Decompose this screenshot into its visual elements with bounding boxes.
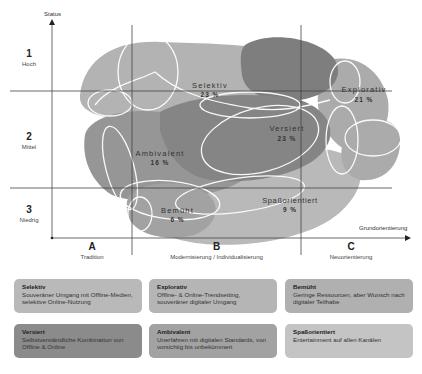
card-selektiv-title: Selektiv — [22, 283, 134, 291]
card-selektiv: Selektiv Souveräner Umgang mit Offline-M… — [14, 279, 142, 313]
card-bemueht-text: Geringe Ressourcen, aber Wunsch nach dig… — [293, 291, 405, 306]
col-b-name: Modernisierung / Individualisierung — [132, 254, 301, 260]
card-bemueht-title: Bemüht — [293, 283, 405, 291]
y-axis-label: Status — [44, 11, 61, 17]
card-bemueht: Bemüht Geringe Ressourcen, aber Wunsch n… — [285, 279, 413, 313]
segment-explorativ-label: Explorativ — [334, 85, 394, 94]
col-c-letter: C — [301, 241, 401, 252]
card-spassorientiert-text: Entertainment auf allen Kanälen — [293, 336, 381, 343]
x-axis-label: Grundorientierung — [359, 225, 407, 231]
card-explorativ: Explorativ Offline- & Online-Trendsettin… — [149, 279, 277, 313]
segment-versiert-percent: 23 % — [262, 135, 312, 142]
card-spassorientiert: Spaßorientiert Entertainment auf allen K… — [285, 324, 413, 358]
card-versiert: Versiert Selbstverständliche Kombination… — [14, 324, 142, 358]
col-b-letter: B — [132, 241, 301, 252]
card-ambivalent-text: Unerfahren mit digitalen Standards, von … — [157, 336, 266, 351]
card-ambivalent: Ambivalent Unerfahren mit digitalen Stan… — [149, 324, 277, 358]
row-3-number: 3 — [14, 204, 44, 215]
row-1-number: 1 — [14, 48, 44, 59]
row-1-name: Hoch — [14, 61, 44, 67]
y-axis-arrow-icon — [49, 19, 55, 25]
segment-diagram — [0, 0, 422, 260]
segment-spassorientiert-percent: 9 % — [250, 206, 330, 213]
card-versiert-title: Versiert — [22, 328, 134, 336]
col-a-name: Tradition — [52, 254, 132, 260]
row-2-name: Mittel — [14, 144, 44, 150]
segment-ambivalent-label: Ambivalent — [125, 149, 195, 158]
segment-bemueht-label: Bemüht — [150, 206, 205, 215]
segment-versiert-label: Versiert — [262, 124, 312, 133]
card-spassorientiert-title: Spaßorientiert — [293, 328, 405, 336]
card-versiert-text: Selbstverständliche Kombination von Offl… — [22, 336, 123, 351]
segment-selektiv-label: Selektiv — [185, 81, 235, 90]
segment-explorativ-percent: 21 % — [334, 96, 394, 103]
segment-selektiv-percent: 23 % — [185, 91, 235, 98]
card-explorativ-title: Explorativ — [157, 283, 269, 291]
card-selektiv-text: Souveräner Umgang mit Offline-Medien, se… — [22, 291, 133, 306]
col-c-name: Neuorientierung — [301, 254, 401, 260]
col-a-letter: A — [52, 241, 132, 252]
segment-spassorientiert-label: Spaßorientiert — [250, 196, 330, 205]
segment-bemueht-percent: 6 % — [150, 216, 205, 223]
row-2-number: 2 — [14, 131, 44, 142]
row-3-name: Niedrig — [14, 217, 44, 223]
blob-explorativ-lower — [341, 120, 400, 180]
card-explorativ-text: Offline- & Online-Trendsetting, souverän… — [157, 291, 240, 306]
card-ambivalent-title: Ambivalent — [157, 328, 269, 336]
x-axis-arrow-icon — [405, 235, 411, 241]
segment-ambivalent-percent: 16 % — [125, 159, 195, 166]
